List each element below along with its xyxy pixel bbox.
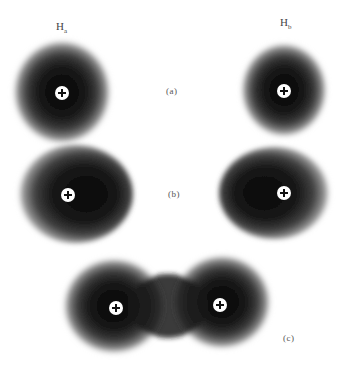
atom-symbol: H [280,16,288,28]
atom-subscript: a [64,27,67,35]
panel-label-c: (c) [283,333,295,343]
electron-cloud-ha-polarized [17,145,133,243]
nucleus-hb-c [213,298,227,312]
electron-cloud-hb-polarized [219,147,331,239]
panel-label-b: (b) [168,189,180,199]
electron-cloud-bond-region [128,274,208,338]
nucleus-ha-a [55,86,69,100]
electron-cloud-diagram [0,0,345,367]
nucleus-hb-a [277,84,291,98]
atom-label-hb: Hb [280,16,291,31]
atom-subscript: b [288,23,292,31]
atom-symbol: H [56,20,64,32]
panel-c [62,254,272,355]
nucleus-hb-b [277,186,291,200]
panel-label-a: (a) [166,86,178,96]
nucleus-ha-c [109,301,123,315]
nucleus-ha-b [61,188,75,202]
atom-label-ha: Ha [56,20,67,35]
